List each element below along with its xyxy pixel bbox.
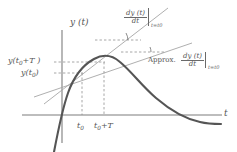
t0-sub: 0	[80, 125, 84, 131]
approx-derivative-fraction: dy (t) dt t=t0	[181, 52, 206, 68]
y-axis-label: y (t)	[70, 18, 89, 27]
t-axis-label: t	[224, 109, 228, 118]
y-arg2-2: )	[36, 68, 39, 77]
dashed-guides-group	[54, 40, 164, 115]
exact-derivative-frac: dy (t) dt	[124, 10, 147, 25]
tick-label-t0-plus-T: t0+T	[94, 122, 113, 131]
exact-derivative-denominator: dt	[124, 18, 147, 25]
angle-arc-exact	[126, 33, 128, 40]
approx-derivative-denominator: dt	[181, 61, 204, 68]
y-arg2-1: +T )	[23, 56, 41, 65]
approx-derivative-frac: dy (t) dt	[181, 53, 204, 68]
t0T-rest: +T	[101, 121, 113, 130]
angle-markers-group	[126, 33, 151, 52]
exact-derivative-fraction: dy (t) dt t=t0	[124, 8, 149, 26]
annotation-approx-word: Approx.	[148, 57, 176, 64]
exact-derivative-eval-subscript: t=t0	[151, 23, 162, 28]
axes-group	[22, 30, 222, 143]
label-y-at-t0: y(t0)	[21, 69, 39, 78]
exact-derivative-eval-bar: t=t0	[148, 8, 149, 26]
angle-arc-approx	[150, 47, 151, 52]
approx-derivative-eval-subscript: t=t0	[208, 65, 219, 70]
curve-y-of-t	[54, 56, 221, 152]
annotation-approx-derivative: dy (t) dt t=t0	[181, 52, 206, 68]
annotation-exact-derivative: dy (t) dt t=t0	[124, 8, 149, 26]
derivative-approximation-figure: y (t) t y(t0+T ) y(t0) t0 t0+T dy (t) dt…	[0, 0, 237, 152]
label-y-at-t0-plus-T: y(t0+T )	[8, 57, 40, 66]
approx-derivative-eval-bar: t=t0	[205, 52, 206, 68]
tick-label-t0: t0	[77, 122, 84, 131]
